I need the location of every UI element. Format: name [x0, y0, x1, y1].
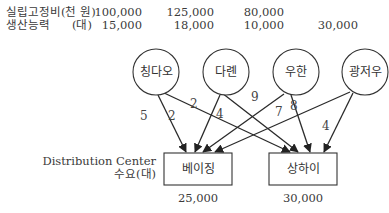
edge-dalian-beijing	[195, 95, 220, 152]
plant-label-guangzhou: 광저우	[349, 65, 382, 79]
dc-label-shanghai: 상하이	[287, 162, 320, 176]
dc-label-beijing: 베이징	[182, 162, 215, 176]
cost-qingdao-shanghai: 2	[168, 109, 176, 123]
demand-label: 수요(대)	[40, 168, 156, 181]
cost-wuhan-shanghai: 8	[290, 99, 298, 113]
cost-wuhan-beijing: 9	[251, 90, 259, 104]
demand-beijing: 25,000	[168, 192, 228, 205]
cost-qingdao-beijing: 5	[140, 109, 148, 123]
demand-shanghai: 30,000	[273, 192, 333, 205]
plant-label-dalian: 다롄	[215, 65, 237, 79]
edge-guangzhou-beijing	[215, 92, 350, 152]
cost-guangzhou-beijing: 7	[275, 105, 283, 119]
cost-guangzhou-shanghai: 4	[322, 119, 330, 133]
edge-qingdao-beijing	[158, 95, 186, 152]
network-diagram: 칭다오 다롄 우한 광저우 베이징 상하이 5 2 2 4 9 8 7 4	[0, 0, 389, 213]
cost-dalian-shanghai: 4	[216, 107, 224, 121]
plant-label-wuhan: 우한	[285, 65, 307, 79]
cost-dalian-beijing: 2	[190, 97, 198, 111]
plant-label-qingdao: 칭다오	[140, 65, 173, 79]
